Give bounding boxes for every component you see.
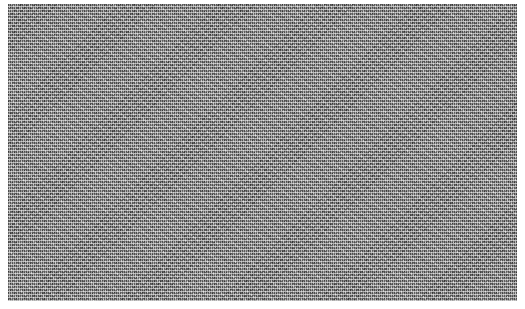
noise-image	[8, 4, 517, 301]
